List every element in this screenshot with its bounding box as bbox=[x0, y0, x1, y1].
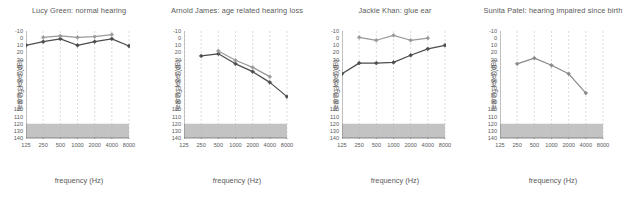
audiogram-panel: Arnold James: age related hearing losshe… bbox=[158, 0, 316, 198]
y-tick-label: 10 bbox=[333, 42, 342, 48]
x-tick-label: 2000 bbox=[562, 138, 574, 148]
x-tick-label: 8000 bbox=[439, 138, 451, 148]
x-axis-label: frequency (Hz) bbox=[158, 176, 316, 185]
panel-title: Lucy Green: normal hearing bbox=[0, 6, 158, 16]
data-point-air-conduction bbox=[41, 40, 45, 44]
y-tick-label: 30 bbox=[491, 57, 500, 63]
x-tick-label: 4000 bbox=[264, 138, 276, 148]
x-tick-label: 125 bbox=[495, 138, 504, 148]
x-tick-label: 1000 bbox=[545, 138, 557, 148]
y-tick-label: 50 bbox=[491, 71, 500, 77]
data-point-bone-conduction bbox=[93, 35, 97, 39]
data-point-bone-conduction bbox=[426, 36, 430, 40]
y-tick-label: 0 bbox=[178, 35, 184, 41]
y-tick-label: 80 bbox=[175, 92, 184, 98]
y-tick-label: 20 bbox=[17, 49, 26, 55]
y-tick-label: 90 bbox=[17, 99, 26, 105]
y-tick-label: 0 bbox=[336, 35, 342, 41]
x-tick-label: 8000 bbox=[597, 138, 609, 148]
x-tick-label: 500 bbox=[56, 138, 65, 148]
panel-title: Sunita Patel: hearing impaired since bir… bbox=[474, 6, 632, 16]
x-tick-label: 1000 bbox=[387, 138, 399, 148]
data-point-bone-conduction bbox=[392, 33, 396, 37]
y-tick-label: 120 bbox=[14, 121, 26, 127]
x-tick-label: 4000 bbox=[422, 138, 434, 148]
y-tick-label: 100 bbox=[172, 106, 184, 112]
y-tick-label: 0 bbox=[20, 35, 26, 41]
x-tick-label: 1000 bbox=[71, 138, 83, 148]
data-point-air-conduction bbox=[127, 44, 130, 48]
x-tick-label: 2000 bbox=[88, 138, 100, 148]
data-point-air-conduction bbox=[532, 56, 536, 60]
y-tick-label: 40 bbox=[17, 64, 26, 70]
y-tick-label: -10 bbox=[15, 28, 26, 34]
y-tick-label: 70 bbox=[17, 85, 26, 91]
data-point-bone-conduction bbox=[76, 36, 80, 40]
x-tick-label: 500 bbox=[530, 138, 539, 148]
y-tick-label: 60 bbox=[491, 78, 500, 84]
y-tick-label: 130 bbox=[172, 128, 184, 134]
x-tick-label: 250 bbox=[196, 138, 205, 148]
y-tick-label: -10 bbox=[331, 28, 342, 34]
y-tick-label: 110 bbox=[488, 114, 500, 120]
y-tick-label: 20 bbox=[491, 49, 500, 55]
data-point-air-conduction bbox=[392, 60, 396, 64]
y-tick-label: 20 bbox=[333, 49, 342, 55]
y-tick-label: 70 bbox=[175, 85, 184, 91]
y-tick-label: 60 bbox=[175, 78, 184, 84]
x-tick-label: 500 bbox=[372, 138, 381, 148]
audiogram-plot bbox=[342, 31, 446, 139]
y-tick-label: 70 bbox=[333, 85, 342, 91]
y-tick-label: 70 bbox=[491, 85, 500, 91]
y-tick-label: 10 bbox=[491, 42, 500, 48]
data-point-air-conduction bbox=[443, 43, 446, 47]
x-tick-label: 4000 bbox=[106, 138, 118, 148]
y-tick-label: 80 bbox=[333, 92, 342, 98]
x-tick-label: 125 bbox=[337, 138, 346, 148]
audiogram-plot bbox=[26, 31, 130, 139]
x-tick-label: 500 bbox=[214, 138, 223, 148]
y-tick-label: 130 bbox=[14, 128, 26, 134]
y-tick-label: 30 bbox=[175, 57, 184, 63]
plot-area: -100102030405060708090100110120130140125… bbox=[500, 31, 603, 138]
y-tick-label: 110 bbox=[14, 114, 26, 120]
x-tick-label: 4000 bbox=[580, 138, 592, 148]
data-point-air-conduction bbox=[26, 43, 28, 47]
y-tick-label: 120 bbox=[330, 121, 342, 127]
x-tick-label: 8000 bbox=[281, 138, 293, 148]
y-tick-label: 0 bbox=[494, 35, 500, 41]
audiogram-figure: Lucy Green: normal hearinghearing level … bbox=[0, 0, 632, 198]
data-point-bone-conduction bbox=[409, 38, 413, 42]
y-tick-label: 50 bbox=[17, 71, 26, 77]
y-tick-label: 120 bbox=[172, 121, 184, 127]
data-point-air-conduction bbox=[426, 47, 430, 51]
audiogram-plot bbox=[500, 31, 604, 139]
data-point-bone-conduction bbox=[58, 34, 62, 38]
x-tick-label: 250 bbox=[354, 138, 363, 148]
data-point-bone-conduction bbox=[374, 38, 378, 42]
y-tick-label: 120 bbox=[488, 121, 500, 127]
x-tick-label: 250 bbox=[38, 138, 47, 148]
y-tick-label: 100 bbox=[330, 106, 342, 112]
y-tick-label: 10 bbox=[17, 42, 26, 48]
data-point-bone-conduction bbox=[41, 36, 45, 40]
x-tick-label: 125 bbox=[21, 138, 30, 148]
x-axis-label: frequency (Hz) bbox=[0, 176, 158, 185]
x-tick-label: 2000 bbox=[246, 138, 258, 148]
y-tick-label: -10 bbox=[489, 28, 500, 34]
x-tick-label: 250 bbox=[512, 138, 521, 148]
plot-area: -100102030405060708090100110120130140125… bbox=[26, 31, 129, 138]
y-tick-label: 40 bbox=[491, 64, 500, 70]
y-tick-label: 90 bbox=[491, 99, 500, 105]
y-tick-label: 110 bbox=[330, 114, 342, 120]
plot-area: -100102030405060708090100110120130140125… bbox=[342, 31, 445, 138]
data-point-bone-conduction bbox=[110, 33, 114, 37]
y-tick-label: 100 bbox=[14, 106, 26, 112]
data-point-air-conduction bbox=[515, 62, 519, 66]
y-tick-label: 40 bbox=[333, 64, 342, 70]
audiogram-plot bbox=[184, 31, 288, 139]
series-line-bone-conduction bbox=[218, 51, 270, 77]
y-tick-label: 130 bbox=[330, 128, 342, 134]
y-tick-label: 20 bbox=[175, 49, 184, 55]
y-tick-label: 80 bbox=[17, 92, 26, 98]
